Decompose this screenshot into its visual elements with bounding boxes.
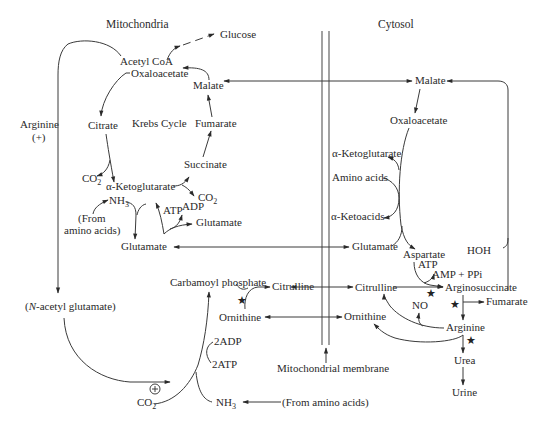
succinate: Succinate: [184, 158, 227, 170]
oxaloacetate-cyto: Oxaloacetate: [390, 114, 448, 126]
arginine-cyto: Arginine: [446, 321, 485, 333]
urea-cycle-diagram: Mitochondria Cytosol Mitochondrial membr…: [0, 0, 543, 428]
alpha-ketoacids: α-Ketoacids: [331, 210, 384, 222]
malate-cyto: Malate: [415, 74, 446, 86]
cytosol-label: Cytosol: [378, 18, 414, 31]
two-adp: 2ADP: [214, 335, 242, 347]
mitochondrial-membrane-label: Mitochondrial membrane: [277, 362, 389, 374]
citrulline-cyto: Citrulline: [355, 281, 397, 293]
glucose: Glucose: [220, 28, 256, 40]
nh3-mito: NH3: [109, 194, 129, 209]
mitochondrial-membrane: [322, 31, 329, 345]
malate-mito: Malate: [193, 79, 224, 91]
from-amino-acids-label-2: amino acids): [64, 224, 121, 237]
glutamate-small: Glutamate: [196, 216, 242, 228]
star-icon: ★: [466, 334, 476, 346]
fumarate-mito: Fumarate: [195, 117, 237, 129]
oxaloacetate-mito: Oxaloacetate: [131, 67, 189, 79]
arginine-left: Arginine: [20, 118, 59, 130]
glutamate-cyto: Glutamate: [352, 240, 398, 252]
two-atp: 2ATP: [212, 358, 237, 370]
alpha-ketoglutarate-mito: α-Ketoglutarate: [106, 180, 175, 192]
circled-plus-icon: [150, 384, 160, 394]
citrulline-mito: Citrulline: [272, 280, 314, 292]
n-acetyl-glutamate: (N-acetyl glutamate): [25, 300, 116, 313]
ornithine-mito: Ornithine: [219, 311, 261, 323]
fumarate-cyto: Fumarate: [486, 295, 528, 307]
adp-mito: ADP: [182, 200, 204, 212]
urea: Urea: [454, 354, 475, 366]
star-icon: ★: [426, 287, 436, 299]
svg-text:★: ★: [426, 287, 436, 299]
amp-ppi: AMP + PPi: [432, 268, 482, 280]
argininosuccinate: Arginosuccinate: [445, 281, 517, 293]
from-amino-acids-bottom: (From amino acids): [282, 396, 369, 409]
nh3-bottom: NH3: [216, 396, 236, 411]
glutamate-mito: Glutamate: [121, 240, 167, 252]
alpha-ketoglutarate-cyto: α-Ketoglutarate: [332, 147, 401, 159]
svg-text:★: ★: [466, 334, 476, 346]
co2-bottom: CO2: [137, 396, 156, 411]
arrows: [58, 34, 508, 404]
atp-mito: ATP: [163, 204, 183, 216]
amino-acids-cyto: Amino acids: [332, 171, 388, 183]
hoh: HOH: [467, 244, 491, 256]
krebs-cycle-label: Krebs Cycle: [132, 117, 187, 129]
arginine-activation-label: (+): [32, 131, 46, 144]
co2-left: CO2: [82, 172, 101, 187]
mitochondria-label: Mitochondria: [106, 18, 169, 30]
urine: Urine: [452, 386, 477, 398]
svg-text:★: ★: [450, 298, 460, 310]
acetyl-coa: Acetyl CoA: [120, 55, 173, 67]
no: NO: [412, 299, 428, 311]
carbamoyl-phosphate: Carbamoyl phosphate: [170, 276, 266, 288]
ornithine-cyto: Ornithine: [344, 310, 386, 322]
star-icon: ★: [450, 298, 460, 310]
citrate: Citrate: [88, 119, 118, 131]
